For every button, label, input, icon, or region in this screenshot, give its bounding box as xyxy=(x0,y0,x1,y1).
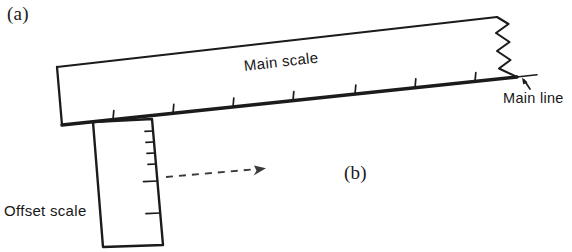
main-scale-tick xyxy=(173,104,174,113)
main-scale-tick xyxy=(293,92,294,101)
main-scale-tick xyxy=(233,98,234,107)
offset-scale-outline xyxy=(93,119,163,247)
main-line-label: Main line xyxy=(503,90,564,106)
offset-scale-group xyxy=(93,119,163,247)
offset-scale-tick xyxy=(144,181,158,182)
main-line-pointer-annotation xyxy=(522,78,530,90)
main-scale-tick xyxy=(113,111,114,120)
main-scale-tick xyxy=(355,85,356,94)
main-scale-left-edge xyxy=(57,67,62,125)
panel-label-b: (b) xyxy=(344,162,367,184)
main-scale-bottom-edge-main-line xyxy=(62,77,517,125)
figure-root: (a) (b) Main scale Main line Offset scal… xyxy=(0,0,572,252)
zigzag-break-icon xyxy=(496,17,517,77)
offset-scale-label: Offset scale xyxy=(4,202,87,219)
dashed-arrow-head-icon xyxy=(254,166,266,176)
dashed-arrow-line xyxy=(166,169,258,177)
main-scale-tick xyxy=(475,73,476,82)
offset-scale-tick xyxy=(146,213,160,214)
main-scale-tick xyxy=(415,79,416,88)
main-scale-group xyxy=(57,17,537,125)
dashed-arrow-annotation xyxy=(166,166,266,177)
panel-label-a: (a) xyxy=(7,3,29,25)
